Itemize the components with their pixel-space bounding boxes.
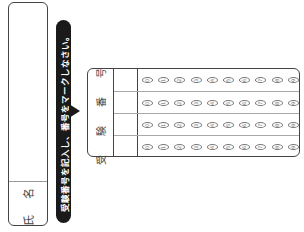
- digit-label: 6: [242, 101, 247, 104]
- digit-label: 8: [275, 123, 280, 126]
- digit-bubble[interactable]: 8: [272, 77, 283, 83]
- digit-bubble[interactable]: 3: [191, 122, 202, 128]
- digit-label: 7: [258, 123, 263, 126]
- digit-label: 4: [210, 78, 215, 81]
- digit-label: 0: [145, 145, 150, 148]
- digit-bubble[interactable]: 5: [223, 77, 234, 83]
- digit-bubble[interactable]: 8: [272, 100, 283, 106]
- digit-bubble[interactable]: 2: [174, 100, 185, 106]
- digit-label: 7: [258, 101, 263, 104]
- digit-bubble[interactable]: 4: [207, 144, 218, 150]
- exam-number-label: 受 験 番 号: [93, 60, 108, 166]
- digit-label: 6: [242, 78, 247, 81]
- digit-bubble[interactable]: 6: [239, 144, 250, 150]
- digit-bubble[interactable]: 0: [142, 144, 153, 150]
- digit-bubble[interactable]: 1: [158, 77, 169, 83]
- digit-label: 6: [242, 145, 247, 148]
- digit-bubble[interactable]: 4: [207, 122, 218, 128]
- digit-bubble[interactable]: 7: [255, 77, 266, 83]
- digit-label: 3: [194, 145, 199, 148]
- digit-label: 7: [258, 145, 263, 148]
- digit-bubble[interactable]: 0: [142, 77, 153, 83]
- digit-label: 3: [194, 123, 199, 126]
- digit-bubble[interactable]: 5: [223, 100, 234, 106]
- digit-bubble[interactable]: 6: [239, 100, 250, 106]
- digit-label: 5: [226, 78, 231, 81]
- name-label: 氏 名: [20, 182, 36, 226]
- bubble-row: 0123456789: [114, 113, 299, 136]
- digit-bubble[interactable]: 4: [207, 100, 218, 106]
- digit-bubble[interactable]: 3: [191, 144, 202, 150]
- bubble-row: 0123456789: [114, 91, 299, 114]
- digit-label: 2: [177, 78, 182, 81]
- digit-label: 4: [210, 101, 215, 104]
- name-box: 氏 名: [8, 2, 48, 226]
- digit-bubble[interactable]: 1: [158, 100, 169, 106]
- arrow-right-icon: [69, 104, 80, 118]
- digit-label: 9: [291, 145, 296, 148]
- digit-label: 2: [177, 123, 182, 126]
- digit-bubble[interactable]: 7: [255, 122, 266, 128]
- digit-label: 1: [161, 123, 166, 126]
- digit-bubble[interactable]: 4: [207, 77, 218, 83]
- digit-bubble[interactable]: 2: [174, 122, 185, 128]
- digit-bubble[interactable]: 2: [174, 77, 185, 83]
- digit-bubble[interactable]: 9: [288, 144, 299, 150]
- digit-bubble[interactable]: 9: [288, 122, 299, 128]
- digit-label: 8: [275, 78, 280, 81]
- digit-bubble[interactable]: 9: [288, 100, 299, 106]
- digit-bubble[interactable]: 5: [223, 122, 234, 128]
- digit-bubble[interactable]: 1: [158, 122, 169, 128]
- digit-bubble[interactable]: 0: [142, 122, 153, 128]
- digit-label: 4: [210, 145, 215, 148]
- digit-label: 0: [145, 101, 150, 104]
- digit-label: 9: [291, 101, 296, 104]
- digit-bubble[interactable]: 6: [239, 122, 250, 128]
- digit-bubble[interactable]: 8: [272, 122, 283, 128]
- digit-label: 8: [275, 101, 280, 104]
- bubble-rows: 0123456789012345678901234567890123456789: [114, 69, 299, 156]
- digit-label: 2: [177, 145, 182, 148]
- digit-bubble[interactable]: 7: [255, 100, 266, 106]
- digit-label: 5: [226, 145, 231, 148]
- digit-bubble[interactable]: 7: [255, 144, 266, 150]
- digit-label: 7: [258, 78, 263, 81]
- digit-label: 2: [177, 101, 182, 104]
- name-label-cell: 氏 名: [9, 183, 47, 225]
- digit-bubble[interactable]: 3: [191, 100, 202, 106]
- instruction-text: 受験番号を記入し、番号をマークしなさい。: [58, 32, 70, 212]
- digit-bubble[interactable]: 6: [239, 77, 250, 83]
- bubble-row: 0123456789: [114, 135, 299, 158]
- digit-label: 1: [161, 78, 166, 81]
- digit-bubble[interactable]: 3: [191, 77, 202, 83]
- digit-label: 3: [194, 101, 199, 104]
- digit-label: 1: [161, 145, 166, 148]
- digit-label: 0: [145, 78, 150, 81]
- digit-bubble[interactable]: 2: [174, 144, 185, 150]
- digit-label: 1: [161, 101, 166, 104]
- digit-label: 9: [291, 78, 296, 81]
- digit-label: 0: [145, 123, 150, 126]
- exam-number-box: 受 験 番 号 01234567890123456789012345678901…: [87, 68, 300, 157]
- bubble-row: 0123456789: [114, 69, 299, 91]
- digit-bubble[interactable]: 5: [223, 144, 234, 150]
- digit-bubble[interactable]: 1: [158, 144, 169, 150]
- digit-label: 5: [226, 123, 231, 126]
- instruction-banner: 受験番号を記入し、番号をマークしなさい。: [56, 20, 71, 223]
- digit-label: 5: [226, 101, 231, 104]
- digit-label: 8: [275, 145, 280, 148]
- digit-label: 4: [210, 123, 215, 126]
- digit-bubble[interactable]: 8: [272, 144, 283, 150]
- digit-bubble[interactable]: 0: [142, 100, 153, 106]
- digit-label: 9: [291, 123, 296, 126]
- exam-number-label-cell: 受 験 番 号: [88, 69, 114, 156]
- digit-label: 6: [242, 123, 247, 126]
- digit-label: 3: [194, 78, 199, 81]
- digit-bubble[interactable]: 9: [288, 77, 299, 83]
